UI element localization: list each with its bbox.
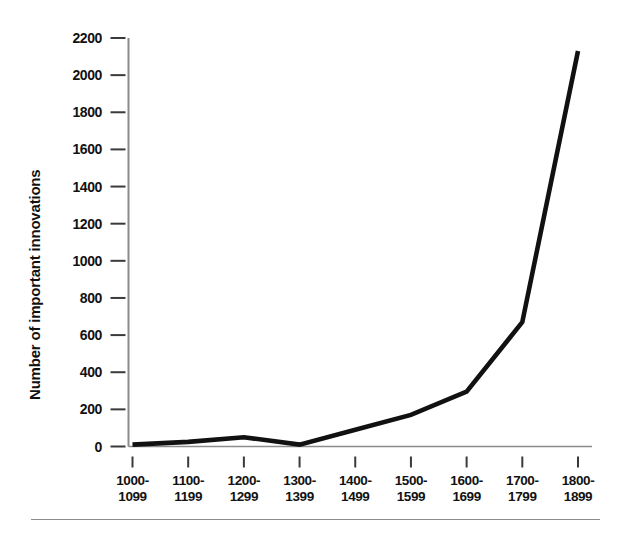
figure-bottom-rule <box>31 519 600 520</box>
x-axis-tick-labels: 1000-10991100-11991200-12991300-13991400… <box>0 0 629 536</box>
x-tick-label: 1800-1899 <box>542 473 614 505</box>
chart-figure: Number of important innovations 22002000… <box>0 0 629 536</box>
